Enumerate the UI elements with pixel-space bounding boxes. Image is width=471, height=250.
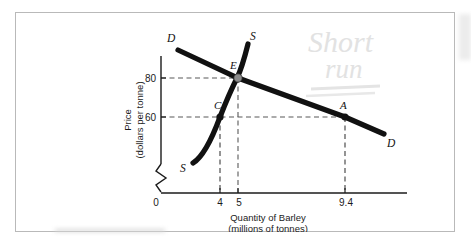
x-axis-title: Quantity of Barley (millions of tonnes) <box>228 212 308 232</box>
point-label-e: E <box>229 59 237 71</box>
scan-smudge-right <box>459 14 471 60</box>
x-tick-label-5: 5 <box>236 197 242 208</box>
demand-label-bottom: D <box>386 137 396 149</box>
handwriting-underline-2 <box>306 93 375 96</box>
y-tick-label-60: 60 <box>145 112 157 123</box>
handwriting-line-2: run <box>325 54 363 84</box>
supply-label-top: S <box>250 30 256 42</box>
point-label-c: C <box>214 99 222 111</box>
point-e-marker <box>234 74 242 82</box>
point-c-marker <box>216 113 223 120</box>
y-axis-title-line-1: Price <box>122 109 133 131</box>
point-label-a: A <box>339 99 347 111</box>
y-tick-label-80: 80 <box>145 73 157 84</box>
figure-page: Short run <box>0 0 471 250</box>
origin-label: 0 <box>153 197 159 208</box>
handwriting-underline-1 <box>311 86 380 89</box>
y-axis-title-line-2: (dollars per tonne) <box>134 81 145 158</box>
axes <box>156 56 407 193</box>
x-axis-title-line-1: Quantity of Barley <box>230 212 306 223</box>
x-axis-title-line-2: (millions of tonnes) <box>228 223 308 232</box>
y-axis-break-icon <box>156 164 166 192</box>
x-tick-label-9-4: 9.4 <box>339 197 353 208</box>
demand-label-top: D <box>166 32 176 44</box>
handwritten-annotation: Short run <box>306 25 380 96</box>
y-axis-title: Price (dollars per tonne) <box>122 81 145 158</box>
point-a-marker <box>341 113 348 120</box>
supply-demand-chart: Short run <box>15 12 455 232</box>
x-tick-label-4: 4 <box>217 197 223 208</box>
supply-label-bottom: S <box>180 162 186 174</box>
